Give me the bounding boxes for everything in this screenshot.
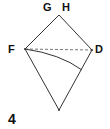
edge-f-bottom xyxy=(25,49,59,110)
edge-top-d xyxy=(59,15,92,50)
fold-line-dashed xyxy=(25,49,92,50)
point-f xyxy=(24,48,26,50)
label-f: F xyxy=(8,44,15,55)
point-bottom xyxy=(58,109,60,111)
edge-d-bottom xyxy=(59,50,92,110)
edge-top-f xyxy=(25,15,59,49)
label-h: H xyxy=(62,2,70,13)
label-d: D xyxy=(95,44,103,55)
point-d xyxy=(91,49,93,51)
kite-diagram xyxy=(0,0,110,129)
label-g: G xyxy=(43,2,52,13)
step-number: 4 xyxy=(8,112,16,126)
fold-curve xyxy=(25,49,82,70)
